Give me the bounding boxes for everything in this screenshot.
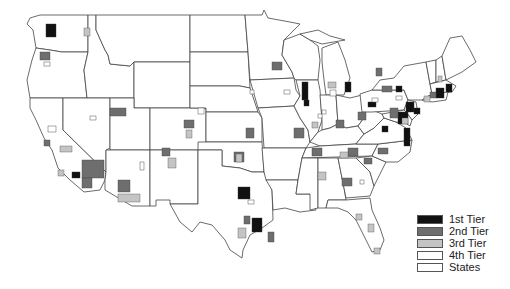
legend-label: States (449, 262, 480, 273)
state-florida (326, 198, 384, 252)
legend-swatch-tier-4 (417, 251, 443, 260)
state-maine (442, 36, 476, 80)
legend-label: 2nd Tier (449, 226, 489, 237)
state-south-dakota (190, 52, 250, 88)
legend-label: 3rd Tier (449, 238, 486, 249)
state-north-dakota (190, 15, 248, 52)
legend-item-tier-1: 1st Tier (417, 214, 507, 225)
legend-swatch-tier-2 (417, 227, 443, 236)
state-washington (27, 15, 88, 52)
state-iowa (250, 78, 300, 108)
legend-swatch-tier-1 (417, 215, 443, 224)
legend-label: 1st Tier (449, 214, 485, 225)
legend-swatch-tier-3 (417, 239, 443, 248)
legend-item-tier-3: 3rd Tier (417, 238, 507, 249)
state-oregon (27, 48, 88, 98)
state-pennsylvania (360, 90, 408, 112)
legend-item-states: States (417, 262, 507, 273)
state-montana (96, 15, 190, 66)
legend-item-tier-4: 4th Tier (417, 250, 507, 261)
legend-label: 4th Tier (449, 250, 486, 261)
legend-item-tier-2: 2nd Tier (417, 226, 507, 237)
map-legend: 1st Tier 2nd Tier 3rd Tier 4th Tier Stat… (417, 214, 507, 274)
legend-swatch-states (417, 263, 443, 272)
state-wyoming (134, 62, 190, 108)
